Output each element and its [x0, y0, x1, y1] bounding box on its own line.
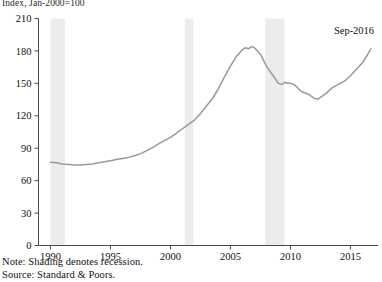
source-line: Source: Standard & Poors. [2, 269, 143, 282]
recession-band [185, 19, 193, 246]
chart-axes [39, 19, 379, 246]
recession-shading-group [50, 19, 284, 246]
annotation-group: Sep-2016 [334, 25, 374, 36]
data-line [51, 47, 371, 165]
recession-band [265, 19, 284, 246]
y-tick-label: 30 [21, 208, 32, 219]
y-tick-label: 60 [21, 175, 32, 186]
chart-container: Index, Jan-2000=100 0306090120150180210 … [0, 0, 382, 282]
y-tick-label: 180 [16, 46, 32, 57]
note-line: Note: Shading denotes recession. [2, 256, 143, 269]
x-tick-label: 2015 [340, 251, 361, 262]
x-tick-label: 2000 [160, 251, 181, 262]
y-axis-ticks: 0306090120150180210 [16, 13, 39, 251]
y-tick-label: 210 [16, 13, 32, 24]
chart-footnotes: Note: Shading denotes recession. Source:… [2, 256, 143, 281]
chart-plot-area: 0306090120150180210 19901995200020052010… [0, 0, 382, 282]
y-tick-label: 90 [21, 143, 32, 154]
y-tick-label: 120 [16, 110, 32, 121]
data-series-group [51, 47, 371, 165]
series-end-annotation: Sep-2016 [334, 25, 374, 36]
x-tick-label: 2010 [280, 251, 301, 262]
recession-band [50, 19, 64, 246]
y-tick-label: 0 [26, 240, 31, 251]
y-tick-label: 150 [16, 78, 32, 89]
x-tick-label: 2005 [220, 251, 241, 262]
